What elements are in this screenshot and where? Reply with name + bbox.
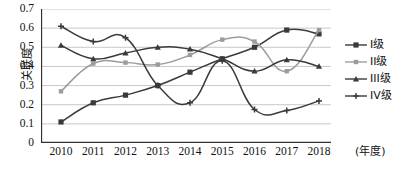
- data-point: [316, 98, 322, 104]
- legend-item-1[interactable]: I级: [344, 36, 417, 53]
- data-point: [187, 70, 192, 75]
- y-tick-label: 0.7: [0, 3, 34, 15]
- legend-label: II级: [368, 55, 388, 69]
- data-point: [58, 119, 63, 124]
- x-tick-label: 2018: [297, 145, 341, 158]
- legend-label: IV级: [368, 89, 392, 103]
- y-tick-label: 0.2: [0, 99, 34, 111]
- line-chart: 关联度 0.70.60.50.40.30.20.10 (年度) 20102011…: [0, 0, 417, 175]
- data-point: [123, 93, 128, 98]
- x-axis-unit-label: (年度): [355, 145, 386, 158]
- legend-item-2[interactable]: II级: [344, 53, 417, 70]
- data-point: [188, 53, 192, 57]
- data-point: [317, 28, 321, 32]
- legend-marker-icon: [344, 89, 368, 103]
- data-point: [284, 27, 289, 32]
- legend-marker-icon: [344, 38, 368, 52]
- y-tick-label: 0.3: [0, 80, 34, 92]
- legend-item-4[interactable]: IV级: [344, 87, 417, 104]
- legend-item-3[interactable]: III级: [344, 70, 417, 87]
- y-tick-label: 0.6: [0, 22, 34, 34]
- legend-label: I级: [368, 38, 384, 52]
- x-axis-tick-labels: (年度) 20102011201220132014201520162017201…: [0, 145, 417, 163]
- data-point: [284, 107, 290, 113]
- y-tick-label: 0.5: [0, 41, 34, 53]
- data-point: [220, 37, 224, 41]
- chart-legend: I级II级III级IV级: [344, 36, 417, 104]
- y-tick-label: 0.1: [0, 118, 34, 130]
- legend-marker-icon: [344, 72, 368, 86]
- data-point: [252, 45, 257, 50]
- plot-svg: [41, 9, 331, 143]
- data-point: [90, 39, 96, 45]
- data-point: [58, 42, 64, 48]
- legend-marker-icon: [344, 55, 368, 69]
- data-point: [59, 89, 63, 93]
- data-point: [91, 100, 96, 105]
- data-point: [156, 62, 160, 66]
- data-point: [123, 60, 127, 64]
- data-series-layer: [58, 23, 322, 124]
- plot-area: [41, 9, 331, 143]
- legend-label: III级: [368, 72, 391, 86]
- data-point: [91, 61, 95, 65]
- data-point: [285, 69, 289, 73]
- data-point: [252, 39, 256, 43]
- y-tick-label: 0.4: [0, 60, 34, 72]
